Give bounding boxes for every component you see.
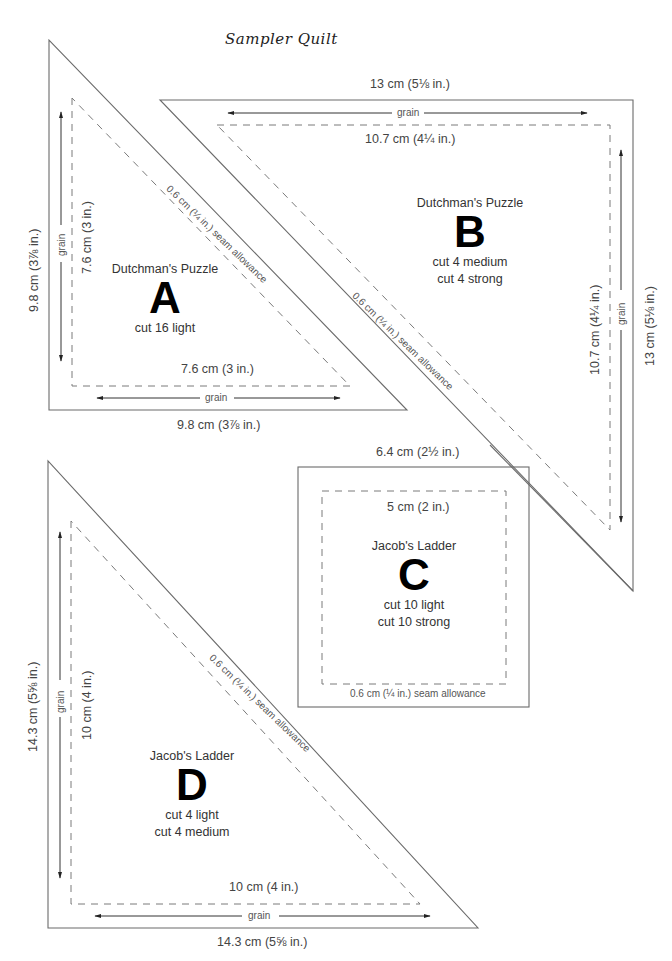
- piece-a-seam-line: [72, 98, 350, 386]
- piece-a-horizontal-grain-label: grain: [205, 392, 227, 403]
- piece-b-template: [160, 100, 633, 591]
- piece-d-outer-horizontal-dimension: 14.3 cm (5⅝ in.): [217, 935, 307, 949]
- piece-b-seam-line: [217, 125, 610, 530]
- pattern-drawing: [0, 0, 672, 961]
- piece-b-horizontal-grain-label: grain: [397, 107, 419, 118]
- piece-a-cut-line: [49, 40, 407, 410]
- piece-a-cut-instruction: cut 16 light: [135, 320, 195, 337]
- piece-c-letter: C: [398, 553, 430, 597]
- piece-c-inner-dimension: 5 cm (2 in.): [387, 500, 450, 514]
- piece-b-cut-line: [160, 100, 633, 591]
- piece-d-horizontal-grain-label: grain: [248, 910, 270, 921]
- piece-a-vertical-grain-label: grain: [56, 234, 67, 256]
- piece-a-inner-vertical-dimension: 7.6 cm (3 in.): [80, 201, 94, 274]
- piece-c-cut-instruction-1: cut 10 light: [384, 597, 444, 614]
- piece-b-vertical-grain-label: grain: [616, 303, 627, 325]
- piece-c-seam-allowance-label: 0.6 cm (¼ in.) seam allowance: [350, 688, 486, 699]
- piece-b-cut-instruction-2: cut 4 strong: [437, 271, 502, 288]
- piece-c-outer-dimension: 6.4 cm (2½ in.): [376, 445, 459, 459]
- piece-a-inner-horizontal-dimension: 7.6 cm (3 in.): [181, 362, 254, 376]
- piece-a-outer-vertical-dimension: 9.8 cm (3⅞ in.): [27, 229, 41, 312]
- piece-b-outer-vertical-dimension: 13 cm (5⅛ in.): [643, 286, 657, 366]
- piece-a-template: [49, 40, 407, 410]
- piece-b-cut-instruction-1: cut 4 medium: [432, 254, 507, 271]
- piece-b-info: Dutchman's Puzzle B cut 4 medium cut 4 s…: [400, 196, 540, 288]
- piece-b-inner-vertical-dimension: 10.7 cm (4¼ in.): [588, 285, 602, 375]
- piece-a-letter: A: [149, 276, 181, 320]
- piece-b-outer-horizontal-dimension: 13 cm (5⅛ in.): [370, 77, 450, 91]
- piece-d-cut-instruction-2: cut 4 medium: [154, 824, 229, 841]
- piece-d-inner-horizontal-dimension: 10 cm (4 in.): [229, 880, 298, 894]
- piece-d-outer-vertical-dimension: 14.3 cm (5⅝ in.): [26, 662, 40, 752]
- piece-d-vertical-grain-label: grain: [55, 691, 66, 713]
- piece-b-letter: B: [454, 210, 486, 254]
- piece-d-cut-instruction-1: cut 4 light: [165, 807, 219, 824]
- piece-d-letter: D: [176, 763, 208, 807]
- piece-a-info: Dutchman's Puzzle A cut 16 light: [100, 262, 230, 337]
- piece-b-inner-horizontal-dimension: 10.7 cm (4¼ in.): [365, 132, 455, 146]
- piece-d-inner-vertical-dimension: 10 cm (4 in.): [80, 671, 94, 740]
- page-title: Sampler Quilt: [225, 30, 338, 48]
- piece-c-info: Jacob's Ladder C cut 10 light cut 10 str…: [349, 539, 479, 631]
- piece-a-outer-horizontal-dimension: 9.8 cm (3⅞ in.): [177, 418, 260, 432]
- piece-c-cut-instruction-2: cut 10 strong: [378, 614, 450, 631]
- piece-d-info: Jacob's Ladder D cut 4 light cut 4 mediu…: [127, 749, 257, 841]
